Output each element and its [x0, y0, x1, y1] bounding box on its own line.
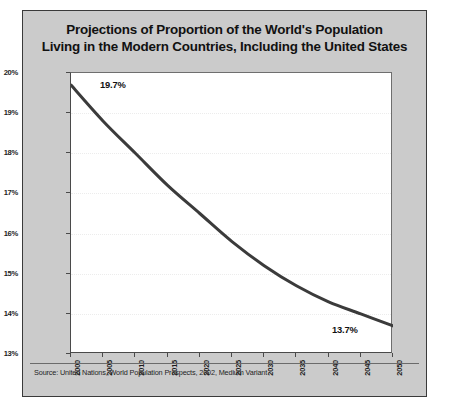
- x-axis-tick: [328, 353, 329, 357]
- projection-curve: [71, 85, 393, 326]
- chart-title: Projections of Proportion of the World's…: [23, 21, 426, 55]
- x-axis-tick: [360, 353, 361, 357]
- x-axis-tick: [392, 353, 393, 357]
- projection-line-series: [71, 73, 393, 354]
- data-label-end: 13.7%: [332, 324, 358, 335]
- footer-divider: [30, 363, 419, 364]
- y-axis-tick: [66, 273, 70, 274]
- x-axis-tick: [231, 353, 232, 357]
- y-axis-tick: [66, 192, 70, 193]
- x-axis-tick: [263, 353, 264, 357]
- y-axis-tick: [66, 112, 70, 113]
- y-axis-tick-label: 16%: [0, 228, 18, 237]
- y-axis-tick-label: 19%: [0, 108, 18, 117]
- y-axis-tick: [66, 152, 70, 153]
- y-axis-tick: [66, 313, 70, 314]
- chart-title-line-2: Living in the Modern Countries, Includin…: [23, 38, 426, 55]
- plot-area-wrapper: 20%19%18%17%16%15%14%13% 200020052010201…: [70, 72, 392, 353]
- x-axis-tick: [134, 353, 135, 357]
- x-axis-tick: [295, 353, 296, 357]
- source-note: Source: United Nations, World Population…: [34, 368, 267, 377]
- x-axis-tick: [102, 353, 103, 357]
- y-axis-tick-label: 14%: [0, 308, 18, 317]
- x-axis-tick: [167, 353, 168, 357]
- y-axis-tick-label: 20%: [0, 68, 18, 77]
- plot-area: [70, 72, 392, 353]
- y-axis-tick-label: 15%: [0, 268, 18, 277]
- chart-title-line-1: Projections of Proportion of the World's…: [23, 21, 426, 38]
- x-axis-tick: [70, 353, 71, 357]
- y-axis-tick-label: 18%: [0, 148, 18, 157]
- data-label-start: 19.7%: [100, 79, 126, 90]
- y-axis-tick: [66, 72, 70, 73]
- y-axis-tick-label: 17%: [0, 188, 18, 197]
- y-axis-tick-label: 13%: [0, 349, 18, 358]
- chart-figure: Projections of Proportion of the World's…: [22, 10, 427, 397]
- x-axis-tick: [199, 353, 200, 357]
- y-axis-tick: [66, 233, 70, 234]
